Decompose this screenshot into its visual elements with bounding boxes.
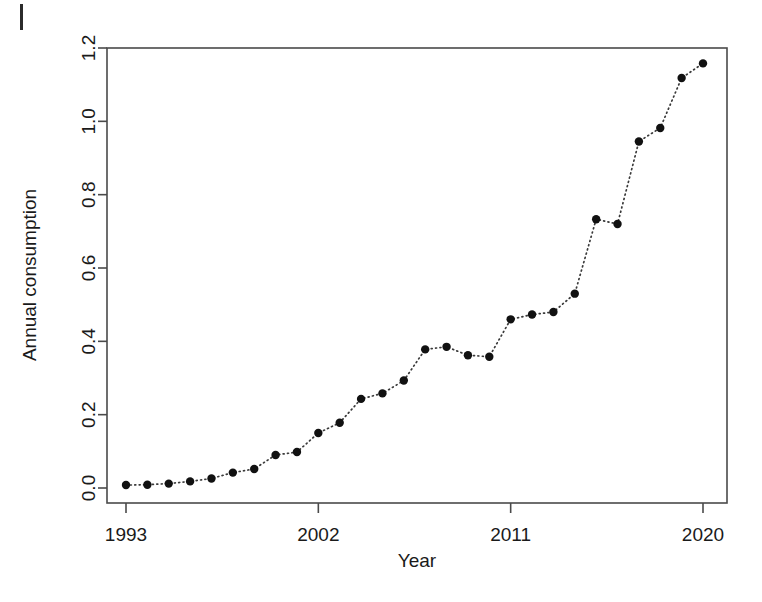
y-tick-label: 0.6 bbox=[78, 255, 99, 281]
data-point bbox=[613, 220, 621, 228]
data-point bbox=[421, 345, 429, 353]
annual-consumption-scatter-chart: 0.00.20.40.60.81.01.2 1993200220112020 Y… bbox=[0, 0, 762, 602]
x-tick-label: 2002 bbox=[297, 524, 339, 545]
data-point bbox=[250, 465, 258, 473]
data-point bbox=[143, 481, 151, 489]
series-data-points bbox=[122, 59, 707, 489]
data-point bbox=[378, 389, 386, 397]
data-point bbox=[592, 215, 600, 223]
series-connector-lines bbox=[126, 63, 703, 485]
data-point bbox=[699, 59, 707, 67]
y-tick-label: 0.2 bbox=[78, 401, 99, 427]
data-point bbox=[165, 479, 173, 487]
data-point bbox=[635, 137, 643, 145]
chart-page: 0.00.20.40.60.81.01.2 1993200220112020 Y… bbox=[0, 0, 762, 602]
plot-frame bbox=[107, 48, 727, 503]
y-tick-label: 1.0 bbox=[78, 108, 99, 134]
x-axis-title: Year bbox=[398, 550, 437, 571]
data-point bbox=[229, 468, 237, 476]
data-point bbox=[400, 376, 408, 384]
data-point bbox=[656, 124, 664, 132]
data-point bbox=[528, 310, 536, 318]
data-point bbox=[464, 351, 472, 359]
y-tick-label: 0.4 bbox=[78, 328, 99, 355]
data-point bbox=[271, 451, 279, 459]
data-point bbox=[357, 395, 365, 403]
data-point bbox=[314, 429, 322, 437]
data-point bbox=[485, 353, 493, 361]
data-point bbox=[549, 308, 557, 316]
x-tick-label: 2011 bbox=[490, 524, 531, 545]
data-point bbox=[186, 477, 194, 485]
data-point bbox=[293, 448, 301, 456]
y-axis-title: Annual consumption bbox=[19, 189, 40, 361]
x-tick-label: 1993 bbox=[105, 524, 147, 545]
y-tick-label: 0.8 bbox=[78, 181, 99, 207]
series-polyline bbox=[126, 63, 703, 485]
y-tick-label: 0.0 bbox=[78, 475, 99, 501]
data-point bbox=[677, 74, 685, 82]
x-tick-label: 2020 bbox=[682, 524, 724, 545]
data-point bbox=[122, 481, 130, 489]
data-point bbox=[442, 343, 450, 351]
data-point bbox=[506, 315, 514, 323]
x-axis-ticks: 1993200220112020 bbox=[105, 503, 724, 545]
y-tick-label: 1.2 bbox=[78, 35, 99, 61]
data-point bbox=[571, 289, 579, 297]
y-axis-ticks: 0.00.20.40.60.81.01.2 bbox=[78, 35, 107, 501]
data-point bbox=[336, 419, 344, 427]
data-point bbox=[207, 474, 215, 482]
